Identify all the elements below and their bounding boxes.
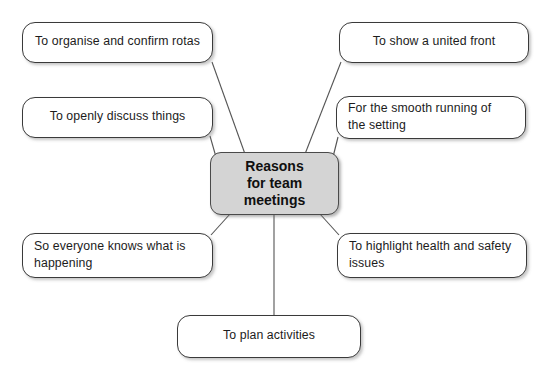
node-show-a-united-front[interactable]: To show a united front	[339, 22, 529, 63]
connector-line-top-left	[212, 62, 245, 154]
node-everyone-knows-what-is-happening[interactable]: So everyone knows what is happening	[22, 233, 213, 278]
node-smooth-running-of-the-setting[interactable]: For the smooth running of the setting	[336, 96, 526, 139]
node-plan-activities[interactable]: To plan activities	[177, 315, 361, 358]
node-center-reasons-for-team-meetings[interactable]: Reasons for team meetings	[210, 152, 339, 215]
center-node-label: Reasons for team meetings	[211, 158, 338, 209]
node-label: To show a united front	[351, 33, 517, 50]
node-label: To openly discuss things	[34, 108, 201, 125]
node-openly-discuss-things[interactable]: To openly discuss things	[22, 97, 213, 138]
node-organise-confirm-rotas[interactable]: To organise and confirm rotas	[22, 22, 213, 63]
node-label: To plan activities	[189, 327, 349, 344]
node-highlight-health-and-safety-issues[interactable]: To highlight health and safety issues	[337, 233, 527, 278]
node-label: To highlight health and safety issues	[349, 238, 515, 271]
node-label: So everyone knows what is happening	[34, 238, 201, 271]
mind-map-diagram: To organise and confirm rotas To openly …	[0, 0, 552, 378]
node-label: To organise and confirm rotas	[34, 33, 201, 50]
node-label: For the smooth running of the setting	[348, 100, 514, 133]
connector-line-bottom-right	[320, 214, 339, 235]
connector-line-bottom-left	[211, 214, 230, 235]
